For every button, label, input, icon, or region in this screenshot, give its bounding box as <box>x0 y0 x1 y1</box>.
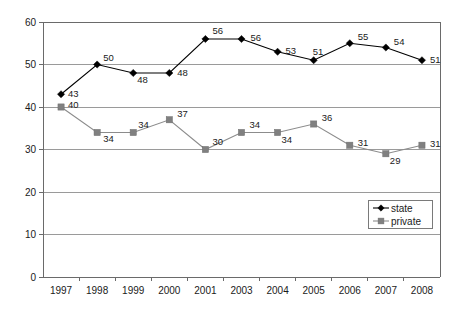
y-tick-label: 10 <box>25 229 37 240</box>
x-tick-label-2001: 2001 <box>194 285 217 296</box>
data-label-state-2008: 51 <box>430 54 441 65</box>
series-line-state <box>61 39 422 94</box>
data-point-private-1998[interactable] <box>94 129 100 135</box>
data-label-private-1998: 34 <box>103 133 114 144</box>
line-chart: 0102030405060 19971998199920002001200320… <box>0 0 456 313</box>
x-tick-label-2008: 2008 <box>411 285 434 296</box>
x-tick-label-1997: 1997 <box>50 285 73 296</box>
data-label-private-1997: 40 <box>68 99 79 110</box>
data-point-state-2003[interactable] <box>238 35 245 42</box>
legend-swatch-marker-private <box>378 218 384 224</box>
x-tick-label-2006: 2006 <box>339 285 362 296</box>
data-label-state-2004: 53 <box>286 45 297 56</box>
x-tick-label-2005: 2005 <box>303 285 326 296</box>
x-tick-label-2007: 2007 <box>375 285 398 296</box>
x-tick-label-2000: 2000 <box>158 285 181 296</box>
y-tick-label: 40 <box>25 102 37 113</box>
data-label-state-2006: 55 <box>358 31 369 42</box>
x-tick-label-1998: 1998 <box>86 285 109 296</box>
chart-legend[interactable]: stateprivate <box>368 200 432 228</box>
data-label-state-1997: 43 <box>68 88 79 99</box>
series-private <box>58 104 425 157</box>
data-point-private-2007[interactable] <box>383 151 389 157</box>
data-label-private-2001: 30 <box>212 136 223 147</box>
y-tick-label: 20 <box>25 187 37 198</box>
data-point-state-2004[interactable] <box>274 48 281 55</box>
data-point-state-1999[interactable] <box>130 69 137 76</box>
chart-plot-area: 0102030405060 19971998199920002001200320… <box>0 0 456 313</box>
data-label-state-2001: 56 <box>212 25 223 36</box>
data-label-private-1999: 34 <box>138 119 149 130</box>
data-point-private-1997[interactable] <box>58 104 64 110</box>
data-point-private-2008[interactable] <box>419 142 425 148</box>
data-label-state-2000: 48 <box>177 67 188 78</box>
data-point-private-2001[interactable] <box>202 146 208 152</box>
data-label-private-2008: 31 <box>430 138 441 149</box>
x-tick-label-2003: 2003 <box>230 285 253 296</box>
data-label-state-2003: 56 <box>251 32 262 43</box>
data-label-private-2006: 31 <box>358 137 369 148</box>
data-point-state-2007[interactable] <box>382 44 389 51</box>
data-point-private-2006[interactable] <box>347 142 353 148</box>
data-point-private-2003[interactable] <box>238 129 244 135</box>
data-label-private-2004: 34 <box>282 134 293 145</box>
y-tick-label: 30 <box>25 144 37 155</box>
data-point-private-2004[interactable] <box>274 129 280 135</box>
y-tick-label: 50 <box>25 59 37 70</box>
data-label-state-1998: 50 <box>103 52 114 63</box>
data-label-state-1999: 48 <box>137 74 148 85</box>
y-tick-label: 0 <box>30 272 36 283</box>
data-point-private-2005[interactable] <box>311 121 317 127</box>
data-label-private-2003: 34 <box>250 119 261 130</box>
data-point-private-1999[interactable] <box>130 129 136 135</box>
data-point-state-2008[interactable] <box>418 57 425 64</box>
data-label-private-2005: 36 <box>322 112 333 123</box>
data-label-state-2005: 51 <box>313 46 324 57</box>
y-tick-label: 60 <box>25 17 37 28</box>
data-label-state-2007: 54 <box>394 36 405 47</box>
data-label-private-2007: 29 <box>390 155 401 166</box>
data-point-state-2006[interactable] <box>346 40 353 47</box>
data-point-state-2005[interactable] <box>310 57 317 64</box>
legend-label-private[interactable]: private <box>391 216 421 227</box>
x-tick-label-1999: 1999 <box>122 285 145 296</box>
data-point-private-2000[interactable] <box>166 117 172 123</box>
x-axis: 1997199819992000200120032004200520062007… <box>50 277 434 296</box>
data-label-private-2000: 37 <box>177 108 188 119</box>
legend-label-state[interactable]: state <box>391 203 413 214</box>
x-tick-label-2004: 2004 <box>266 285 289 296</box>
series-state <box>57 35 425 97</box>
